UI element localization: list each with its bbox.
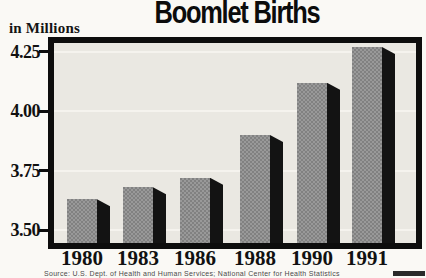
- y-tick-label: 4.25: [0, 43, 40, 61]
- x-tick-label: 1980: [50, 248, 114, 269]
- x-tick-label: 1988: [223, 248, 287, 269]
- caption-credit-block: [393, 271, 425, 276]
- bar-3d-side: [327, 83, 340, 243]
- source-caption: Source: U.S. Dept. of Health and Human S…: [44, 270, 340, 278]
- bar-1986: [180, 178, 223, 243]
- bar-3d-side: [153, 187, 166, 243]
- bar-front-face: [67, 199, 97, 243]
- bar-3d-side: [270, 135, 283, 243]
- y-tick-mark: [39, 169, 48, 172]
- y-tick-label: 3.50: [0, 221, 40, 239]
- y-tick-mark: [39, 50, 48, 53]
- bar-front-face: [240, 135, 270, 243]
- bar-front-face: [352, 47, 382, 243]
- x-tick-label: 1991: [335, 248, 399, 269]
- bar-front-face: [297, 83, 327, 243]
- y-tick-label: 3.75: [0, 162, 40, 180]
- chart-title: Boomlet Births: [85, 0, 388, 31]
- y-axis-unit-label: in Millions: [9, 20, 80, 37]
- bar-front-face: [123, 187, 153, 243]
- bar-1983: [123, 187, 166, 243]
- bar-1988: [240, 135, 283, 243]
- x-tick-label: 1983: [106, 248, 170, 269]
- bar-3d-side: [382, 47, 395, 243]
- x-tick-label: 1986: [163, 248, 227, 269]
- y-tick-label: 4.00: [0, 102, 40, 120]
- plot-area: [54, 43, 416, 243]
- y-tick-mark: [39, 110, 48, 113]
- bar-1990: [297, 83, 340, 243]
- y-tick-mark: [39, 229, 48, 232]
- plot-frame: [48, 37, 422, 249]
- bar-1980: [67, 199, 110, 243]
- bar-3d-side: [97, 199, 110, 243]
- bar-1991: [352, 47, 395, 243]
- bar-3d-side: [210, 178, 223, 243]
- bar-front-face: [180, 178, 210, 243]
